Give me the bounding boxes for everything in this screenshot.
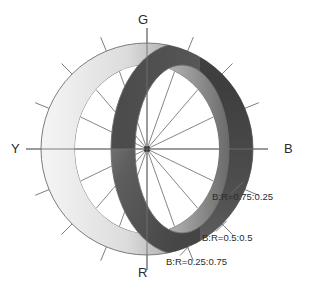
figure-canvas: G B R Y B:R=0.75:0.25 B:R=0.5:0.5 B:R=0.… (0, 0, 317, 291)
blue-axis-label: B (284, 142, 293, 155)
ratio-label-05-05: B:R=0.5:0.5 (202, 233, 252, 243)
ratio-label-025-075: B:R=0.25:0.75 (166, 257, 227, 267)
ratio-label-075-025: B:R=0.75:0.25 (212, 192, 273, 202)
red-axis-label: R (138, 266, 147, 279)
color-wheel-svg (0, 0, 317, 291)
green-axis-label: G (138, 13, 148, 26)
yellow-axis-label: Y (11, 142, 20, 155)
